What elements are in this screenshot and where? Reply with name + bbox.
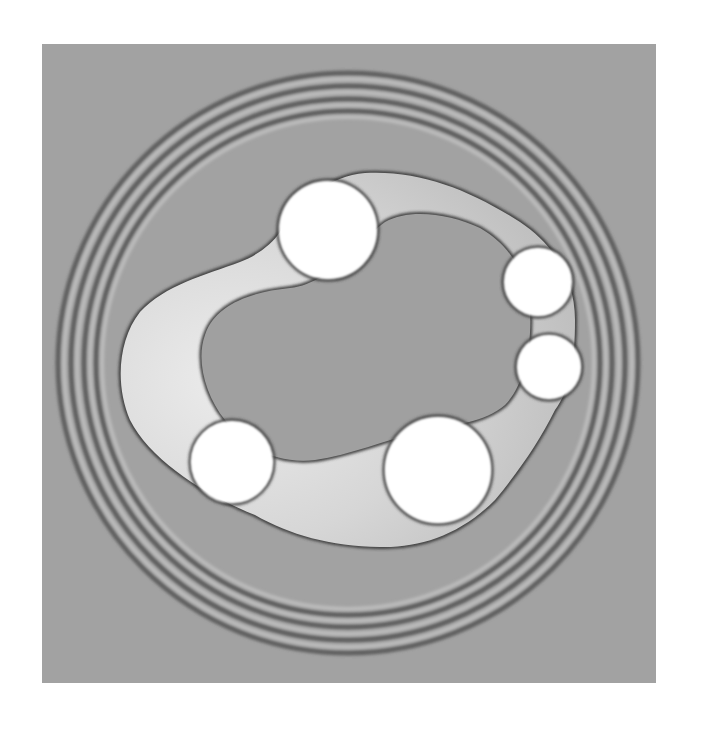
particle-right-upper <box>504 248 572 316</box>
particle-top <box>279 181 377 279</box>
particle-bottom-left <box>191 421 273 503</box>
particle-bottom-right <box>385 417 491 523</box>
particle-right-lower <box>517 335 581 399</box>
simulation-figure <box>0 0 704 730</box>
